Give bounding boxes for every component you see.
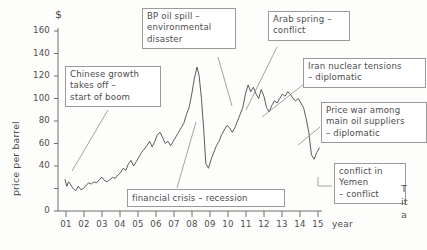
annotation-yemen-conflict[interactable]: conflict in Yemen – conflict: [334, 163, 406, 204]
y-tick-label: 0: [20, 205, 50, 215]
annotation-iran-nuclear[interactable]: Iran nuclear tensions – diplomatic: [303, 58, 426, 88]
x-tick-label: 05: [129, 219, 147, 229]
annotation-chinese-growth[interactable]: Chinese growth takes off – start of boom: [65, 66, 161, 107]
y-tick-label: 160: [20, 25, 50, 35]
clipped-side-note: T it a: [401, 182, 427, 221]
x-tick-label: 06: [147, 219, 165, 229]
annotation-price-war[interactable]: Price war among main oil suppliers – dip…: [321, 102, 427, 143]
leader-price-war: [298, 127, 320, 145]
oil-price-chart: $ price per barrel year 0406080100120140…: [0, 0, 427, 250]
leader-yemen-conflict: [318, 177, 332, 186]
y-axis-label: price per barrel: [10, 121, 21, 196]
x-tick-label: 02: [75, 219, 93, 229]
x-tick-label: 13: [273, 219, 291, 229]
y-tick-label: 100: [20, 93, 50, 103]
y-tick-marks: [54, 31, 58, 211]
x-tick-label: 10: [219, 219, 237, 229]
x-tick-label: 15: [309, 219, 327, 229]
leader-bp-oil-spill: [218, 57, 232, 106]
x-tick-label: 03: [93, 219, 111, 229]
x-axis-label: year: [332, 219, 353, 229]
x-tick-label: 11: [237, 219, 255, 229]
leader-iran-nuclear: [262, 84, 304, 117]
y-tick-label: 120: [20, 70, 50, 80]
y-axis-unit-symbol: $: [55, 8, 62, 21]
annotation-financial-crisis[interactable]: financial crisis – recession: [127, 189, 285, 207]
leader-arab-spring: [246, 47, 277, 110]
annotation-bp-oil-spill[interactable]: BP oil spill – environmental disaster: [142, 8, 236, 49]
x-tick-label: 07: [165, 219, 183, 229]
y-tick-label: 40: [20, 160, 50, 170]
y-tick-label: 140: [20, 48, 50, 58]
y-tick-label: 60: [20, 138, 50, 148]
annotation-arab-spring[interactable]: Arab spring – conflict: [268, 11, 350, 41]
leader-chinese-growth: [72, 110, 108, 171]
x-tick-label: 04: [111, 219, 129, 229]
x-tick-label: 09: [201, 219, 219, 229]
leader-financial-crisis: [177, 122, 196, 188]
x-tick-marks: [66, 211, 318, 217]
x-tick-label: 01: [57, 219, 75, 229]
x-tick-label: 08: [183, 219, 201, 229]
x-tick-label: 12: [255, 219, 273, 229]
y-tick-label: 80: [20, 115, 50, 125]
x-tick-label: 14: [291, 219, 309, 229]
